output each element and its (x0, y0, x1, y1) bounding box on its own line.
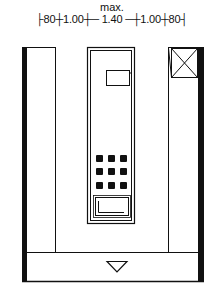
entrance-arrow-icon (107, 262, 127, 273)
left-side-panel (27, 47, 56, 252)
right-wall (198, 47, 204, 281)
floor-plan (0, 0, 224, 297)
left-wall (22, 47, 27, 281)
display-screen (107, 71, 132, 86)
crossed-box (169, 48, 198, 78)
card-slot (94, 196, 131, 218)
keypad (96, 155, 127, 189)
